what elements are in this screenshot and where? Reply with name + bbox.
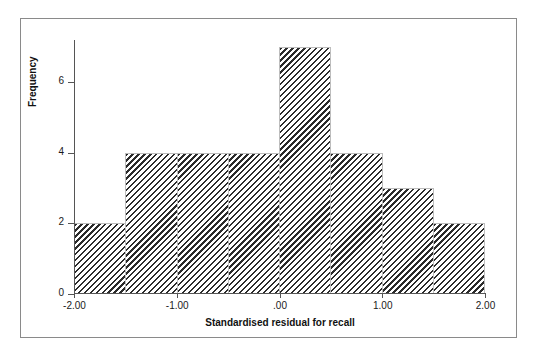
histogram-bar (125, 153, 177, 294)
y-axis-tick-label: 4 (58, 146, 64, 157)
x-axis-tick-label: -1.00 (166, 300, 189, 311)
histogram-bar (228, 153, 280, 294)
y-axis-tick: 2 (68, 223, 75, 224)
histogram-bar (279, 47, 331, 294)
plot-area (74, 40, 485, 294)
x-axis-tick: 2.00 (485, 293, 486, 298)
histogram-figure: 0246 -2.00-1.00.001.002.00 Frequency Sta… (20, 18, 517, 338)
x-axis-tick: -1.00 (177, 293, 178, 298)
histogram-bar (433, 223, 485, 294)
y-axis-tick-label: 6 (58, 75, 64, 86)
histogram-bar (177, 153, 229, 294)
histogram-bar (382, 188, 434, 294)
y-axis-tick-label: 0 (58, 287, 64, 298)
x-axis-tick: 1.00 (382, 293, 383, 298)
x-axis-tick-label: 2.00 (476, 300, 495, 311)
bar-series (74, 40, 485, 294)
y-axis-tick-label: 2 (58, 216, 64, 227)
y-axis-line (74, 40, 75, 294)
x-axis-title: Standardised residual for recall (74, 317, 486, 328)
histogram-bar (330, 153, 382, 294)
x-axis-tick-label: 1.00 (373, 300, 392, 311)
histogram-bar (74, 223, 126, 294)
x-axis-tick-label: .00 (273, 300, 287, 311)
y-axis-tick: 4 (68, 153, 75, 154)
x-axis-tick: .00 (280, 293, 281, 298)
x-axis-tick-label: -2.00 (63, 300, 86, 311)
y-axis-tick: 6 (68, 82, 75, 83)
y-axis-title: Frequency (27, 56, 38, 107)
x-axis-tick: -2.00 (74, 293, 75, 298)
